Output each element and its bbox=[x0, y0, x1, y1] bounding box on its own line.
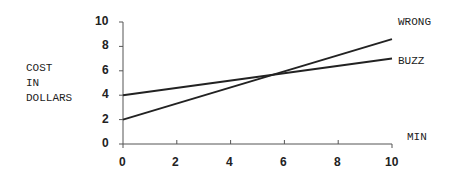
series-line-buzz bbox=[123, 59, 392, 96]
x-tick-label-6: 6 bbox=[280, 155, 287, 169]
y-tick-label-0: 0 bbox=[102, 136, 109, 150]
y-tick-label-2: 2 bbox=[102, 112, 109, 126]
y-ticks bbox=[119, 22, 123, 144]
x-tick-label-4: 4 bbox=[226, 155, 233, 169]
y-tick-label-8: 8 bbox=[102, 38, 109, 52]
x-tick-label-0: 0 bbox=[119, 155, 126, 169]
x-tick-label-2: 2 bbox=[172, 155, 179, 169]
series-label-wrong: WRONG bbox=[398, 16, 431, 28]
x-tick-label-8: 8 bbox=[334, 155, 341, 169]
series-label-buzz: BUZZ bbox=[398, 55, 424, 67]
x-tick-label-10: 10 bbox=[385, 155, 398, 169]
x-axis-label: MIN bbox=[407, 131, 427, 143]
y-tick-label-10: 10 bbox=[95, 14, 108, 28]
series-line-wrong bbox=[123, 39, 392, 120]
y-tick-label-4: 4 bbox=[102, 87, 109, 101]
y-tick-label-6: 6 bbox=[102, 63, 109, 77]
